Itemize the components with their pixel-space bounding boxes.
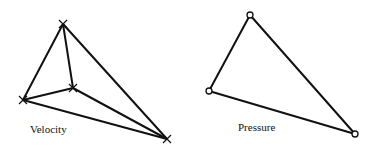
element-edge xyxy=(250,15,355,134)
element-edge xyxy=(209,15,250,91)
element-edge xyxy=(23,24,63,100)
finite-element-diagram: Velocity Pressure xyxy=(0,0,380,154)
circle-node-icon xyxy=(247,12,253,18)
circle-node-icon xyxy=(352,131,358,137)
circle-node-icon xyxy=(206,88,212,94)
element-edge xyxy=(23,88,73,100)
element-edge xyxy=(63,24,167,139)
pressure-label: Pressure xyxy=(238,121,275,133)
element-edge xyxy=(209,91,355,134)
element-edge xyxy=(73,88,167,139)
velocity-label: Velocity xyxy=(30,123,67,135)
pressure-element xyxy=(206,12,358,137)
